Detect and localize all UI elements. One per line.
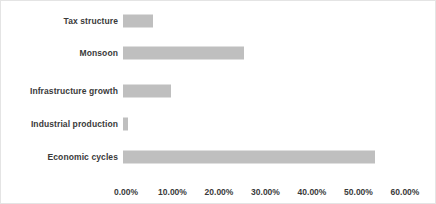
bar-monsoon	[123, 47, 244, 60]
bar-tax-structure	[123, 15, 153, 28]
category-label: Monsoon	[1, 48, 123, 58]
bar-row: Industrial production	[1, 112, 435, 136]
bar-track	[123, 112, 435, 136]
bar-industrial-production	[123, 118, 128, 131]
bar-track	[123, 41, 435, 65]
x-tick-label: 20.00%	[205, 187, 234, 197]
bar-row: Infrastructure growth	[1, 79, 435, 103]
bar-row: Tax structure	[1, 9, 435, 33]
category-label: Tax structure	[1, 16, 123, 26]
x-tick-label: 10.00%	[158, 187, 187, 197]
x-tick-label: 0.00%	[114, 187, 138, 197]
x-tick-label: 60.00%	[391, 187, 420, 197]
bar-chart-figure: Tax structure Monsoon Infrastructure gro…	[0, 0, 436, 204]
bar-economic-cycles	[123, 151, 375, 164]
bar-track	[123, 9, 435, 33]
bar-row: Economic cycles	[1, 145, 435, 169]
category-label: Infrastructure growth	[1, 86, 123, 96]
bar-row: Monsoon	[1, 41, 435, 65]
bar-track	[123, 79, 435, 103]
category-label: Economic cycles	[1, 152, 123, 162]
bar-infrastructure-growth	[123, 85, 171, 98]
plot-area: Tax structure Monsoon Infrastructure gro…	[1, 1, 435, 203]
bar-track	[123, 145, 435, 169]
x-tick-label: 30.00%	[251, 187, 280, 197]
x-axis: 0.00%10.00%20.00%30.00%40.00%50.00%60.00…	[1, 183, 435, 197]
category-label: Industrial production	[1, 119, 123, 129]
x-tick-label: 50.00%	[344, 187, 373, 197]
x-tick-label: 40.00%	[298, 187, 327, 197]
